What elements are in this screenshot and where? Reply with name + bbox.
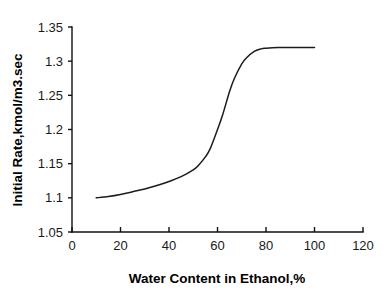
x-tick-label: 40 (162, 238, 176, 253)
x-tick-label: 20 (113, 238, 127, 253)
y-axis-title: Initial Rate,kmol/m3.sec (10, 53, 25, 207)
chart-background (0, 0, 388, 297)
y-tick-label: 1.1 (45, 190, 63, 205)
y-tick-label: 1.35 (38, 20, 63, 35)
y-tick-label: 1.3 (45, 54, 63, 69)
x-tick-label: 60 (210, 238, 224, 253)
x-tick-label: 100 (304, 238, 326, 253)
y-tick-label: 1.25 (38, 88, 63, 103)
y-tick-label: 1.15 (38, 156, 63, 171)
x-tick-label: 80 (259, 238, 273, 253)
x-axis-title: Water Content in Ethanol,% (129, 271, 306, 286)
x-tick-label: 120 (352, 238, 374, 253)
y-tick-label: 1.2 (45, 122, 63, 137)
x-tick-label: 0 (68, 238, 75, 253)
y-tick-label: 1.05 (38, 225, 63, 240)
chart-container: 1.051.11.151.21.251.31.35 02040608010012… (0, 0, 388, 297)
line-chart: 1.051.11.151.21.251.31.35 02040608010012… (0, 0, 388, 297)
